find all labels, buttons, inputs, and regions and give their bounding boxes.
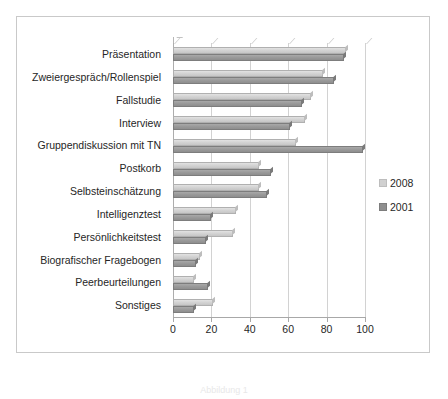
x-axis-tick <box>173 317 174 322</box>
category-label: Zweiergespräch/Rollenspiel <box>17 66 167 89</box>
bar-2008 <box>173 93 311 100</box>
legend-item-2008: 2008 <box>379 177 431 189</box>
category-label: Intelligenztest <box>17 203 167 226</box>
legend-swatch-icon <box>379 179 387 187</box>
category-label: Peerbeurteilungen <box>17 271 167 294</box>
bar-2001 <box>173 54 344 61</box>
bar-2008 <box>173 47 346 54</box>
plot-area <box>173 43 365 317</box>
legend-label: 2008 <box>390 177 413 189</box>
bar-2008 <box>173 70 323 77</box>
category-label: Präsentation <box>17 43 167 66</box>
x-axis-line <box>173 317 365 318</box>
category-label: Postkorb <box>17 157 167 180</box>
x-axis-tick <box>211 317 212 322</box>
x-axis-tick <box>327 317 328 322</box>
bar-2001 <box>173 77 334 84</box>
bar-rows <box>173 43 365 317</box>
bar-2008 <box>173 207 236 214</box>
bar-row <box>173 271 365 294</box>
category-label: Interview <box>17 111 167 134</box>
bar-row <box>173 157 365 180</box>
bar-row <box>173 43 365 66</box>
bar-2008 <box>173 139 296 146</box>
bar-row <box>173 111 365 134</box>
bar-row <box>173 180 365 203</box>
bar-row <box>173 89 365 112</box>
category-label: Fallstudie <box>17 89 167 112</box>
x-axis-tick <box>250 317 251 322</box>
bar-2001 <box>173 169 271 176</box>
category-label: Persönlichkeitstest <box>17 226 167 249</box>
bar-row <box>173 248 365 271</box>
x-axis-tick-label: 80 <box>321 324 333 335</box>
bar-2008 <box>173 230 233 237</box>
bar-chart: PräsentationZweiergespräch/RollenspielFa… <box>17 17 431 354</box>
x-axis-tick-label: 40 <box>244 324 256 335</box>
category-label: Sonstiges <box>17 294 167 317</box>
bar-2001 <box>173 214 211 221</box>
category-axis-labels: PräsentationZweiergespräch/RollenspielFa… <box>17 43 167 317</box>
bar-2001 <box>173 123 290 130</box>
bar-row <box>173 226 365 249</box>
x-axis-tick-label: 60 <box>282 324 294 335</box>
bar-2001 <box>173 100 302 107</box>
x-axis-tick <box>365 317 366 322</box>
category-label: Biografischer Fragebogen <box>17 248 167 271</box>
legend-item-2001: 2001 <box>379 201 431 213</box>
gridline <box>365 43 366 317</box>
bar-2008 <box>173 276 194 283</box>
bar-2001 <box>173 191 267 198</box>
bar-2008 <box>173 162 259 169</box>
chart-legend: 20082001 <box>379 177 431 225</box>
x-axis-tick-label: 0 <box>170 324 176 335</box>
gridline-cap <box>366 38 379 44</box>
x-axis-tick-labels: 020406080100 <box>157 324 381 340</box>
bar-2008 <box>173 184 259 191</box>
legend-swatch-icon <box>379 203 387 211</box>
bar-row <box>173 203 365 226</box>
x-axis-tick-label: 20 <box>206 324 218 335</box>
bar-2001 <box>173 283 208 290</box>
bar-row <box>173 294 365 317</box>
bar-row <box>173 134 365 157</box>
bar-2001 <box>173 237 206 244</box>
bar-2001 <box>173 146 363 153</box>
figure-caption: Abbildung 1 <box>0 386 448 395</box>
x-axis-tick-label: 100 <box>356 324 374 335</box>
bar-2008 <box>173 116 305 123</box>
chart-figure: PräsentationZweiergespräch/RollenspielFa… <box>16 16 430 353</box>
bar-2001 <box>173 260 196 267</box>
bar-2001 <box>173 306 194 313</box>
legend-label: 2001 <box>390 201 413 213</box>
bar-row <box>173 66 365 89</box>
category-label: Selbsteinschätzung <box>17 180 167 203</box>
x-axis-tick <box>288 317 289 322</box>
category-label: Gruppendiskussion mit TN <box>17 134 167 157</box>
